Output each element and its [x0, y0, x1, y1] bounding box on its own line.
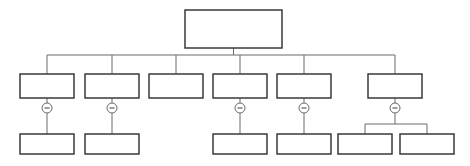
leaf-node-box[interactable]: [277, 134, 331, 154]
collapse-icon[interactable]: [299, 103, 309, 113]
collapse-icon[interactable]: [235, 103, 245, 113]
leaf-node[interactable]: [400, 134, 454, 154]
leaf-node[interactable]: [85, 134, 139, 154]
child-node-box[interactable]: [213, 74, 267, 98]
root-node-box[interactable]: [185, 10, 282, 48]
child-node-box[interactable]: [277, 74, 331, 98]
leaf-node[interactable]: [277, 134, 331, 154]
org-chart: [0, 0, 470, 166]
child-node-box[interactable]: [368, 74, 422, 98]
leaf-node-box[interactable]: [85, 134, 139, 154]
root-node[interactable]: [185, 10, 282, 48]
leaf-node-box[interactable]: [338, 134, 392, 154]
leaf-node[interactable]: [213, 134, 267, 154]
leaf-node[interactable]: [338, 134, 392, 154]
child-node-box[interactable]: [149, 74, 203, 98]
child-node[interactable]: [149, 74, 203, 98]
leaf-node-box[interactable]: [400, 134, 454, 154]
child-node[interactable]: [368, 74, 422, 98]
collapse-icon[interactable]: [390, 103, 400, 113]
leaf-node-box[interactable]: [20, 134, 74, 154]
child-node[interactable]: [20, 74, 74, 98]
child-node[interactable]: [213, 74, 267, 98]
child-node-box[interactable]: [20, 74, 74, 98]
collapse-icon[interactable]: [42, 103, 52, 113]
leaf-node-box[interactable]: [213, 134, 267, 154]
child-node[interactable]: [277, 74, 331, 98]
child-node[interactable]: [85, 74, 139, 98]
child-node-box[interactable]: [85, 74, 139, 98]
collapse-icon[interactable]: [107, 103, 117, 113]
leaf-node[interactable]: [20, 134, 74, 154]
